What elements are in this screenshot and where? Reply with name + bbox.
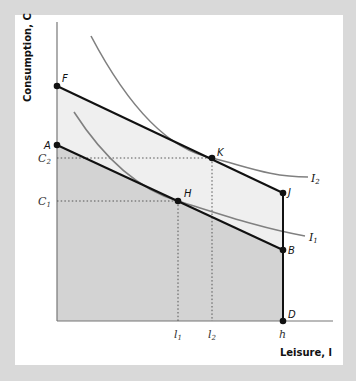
point-k-dot (209, 155, 216, 162)
point-h-dot (175, 198, 182, 205)
labor-leisure-diagram: F A K H J B D C2 C1 l1 l2 h I2 I1 Consum… (0, 0, 356, 381)
x-axis-title: Leisure, l (280, 347, 332, 358)
point-d-dot (280, 318, 287, 325)
point-h-label: H (184, 188, 192, 199)
point-f-label: F (62, 73, 68, 84)
c2-tick-label: C2 (38, 152, 51, 166)
i1-curve-label: I1 (308, 231, 318, 245)
point-j-dot (280, 190, 287, 197)
c1-tick-label: C1 (38, 195, 51, 209)
i2-curve-label: I2 (310, 172, 320, 186)
point-a-label: A (43, 140, 51, 151)
point-b-label: B (288, 245, 295, 256)
point-b-dot (280, 247, 287, 254)
point-f-dot (54, 83, 61, 90)
point-a-dot (54, 142, 61, 149)
point-j-label: J (286, 187, 291, 198)
h-tick-label: h (279, 328, 286, 341)
point-k-label: K (217, 147, 225, 158)
l1-tick-label: l1 (174, 328, 182, 342)
l2-tick-label: l2 (208, 328, 217, 342)
y-axis-title: Consumption, C (22, 13, 33, 102)
point-d-label: D (288, 309, 296, 320)
